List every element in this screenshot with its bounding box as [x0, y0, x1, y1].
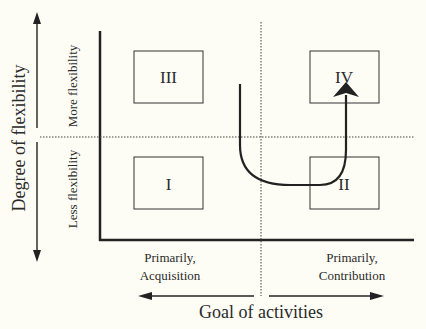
diagram-canvas: III IV I II Degree of flexibility More f…	[0, 0, 426, 329]
y-axis-arrow	[33, 12, 41, 262]
x-right-label-line2: Contribution	[319, 268, 386, 283]
y-axis-lower-label: Less flexibility	[65, 149, 80, 228]
quadrant-label-II: II	[338, 175, 350, 194]
y-axis-upper-label: More flexibility	[65, 44, 80, 127]
transition-arrow	[240, 82, 359, 185]
x-left-label-line1: Primarily,	[144, 250, 196, 265]
quadrant-label-I: I	[166, 175, 172, 194]
x-axis-title: Goal of activities	[199, 302, 323, 322]
y-axis-title: Degree of flexibility	[9, 65, 29, 212]
x-right-label-line1: Primarily,	[326, 250, 378, 265]
x-left-label-line2: Acquisition	[140, 268, 201, 283]
quadrant-label-III: III	[160, 68, 177, 87]
